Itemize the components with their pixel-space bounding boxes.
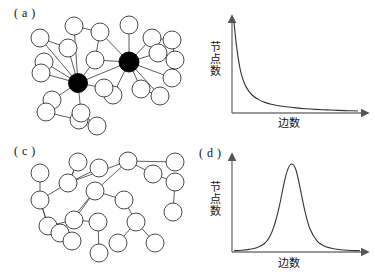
- panel-d-x-axis-label: 边数: [278, 258, 300, 270]
- figure-container: ( a ): [0, 0, 375, 277]
- panel-b-power-law-chart: ( b ) 节点数 边数: [190, 0, 375, 138]
- scale-free-network-graph: [0, 0, 190, 138]
- panel-c-random-network: ( c ): [0, 138, 190, 277]
- panel-a-scale-free-network: ( a ): [0, 0, 190, 138]
- scale-free-nodes: [31, 16, 184, 135]
- panel-d-gaussian-chart: ( d ) 节点数 边数: [190, 138, 375, 277]
- gaussian-curve: [234, 164, 360, 251]
- panel-b-y-axis-label: 节点数: [208, 42, 222, 78]
- panel-b-x-axis-label: 边数: [278, 118, 300, 130]
- panel-d-y-axis-label: 节点数: [208, 182, 222, 218]
- power-law-curve: [234, 22, 358, 111]
- random-network-graph: [0, 138, 190, 277]
- random-network-nodes: [31, 152, 184, 262]
